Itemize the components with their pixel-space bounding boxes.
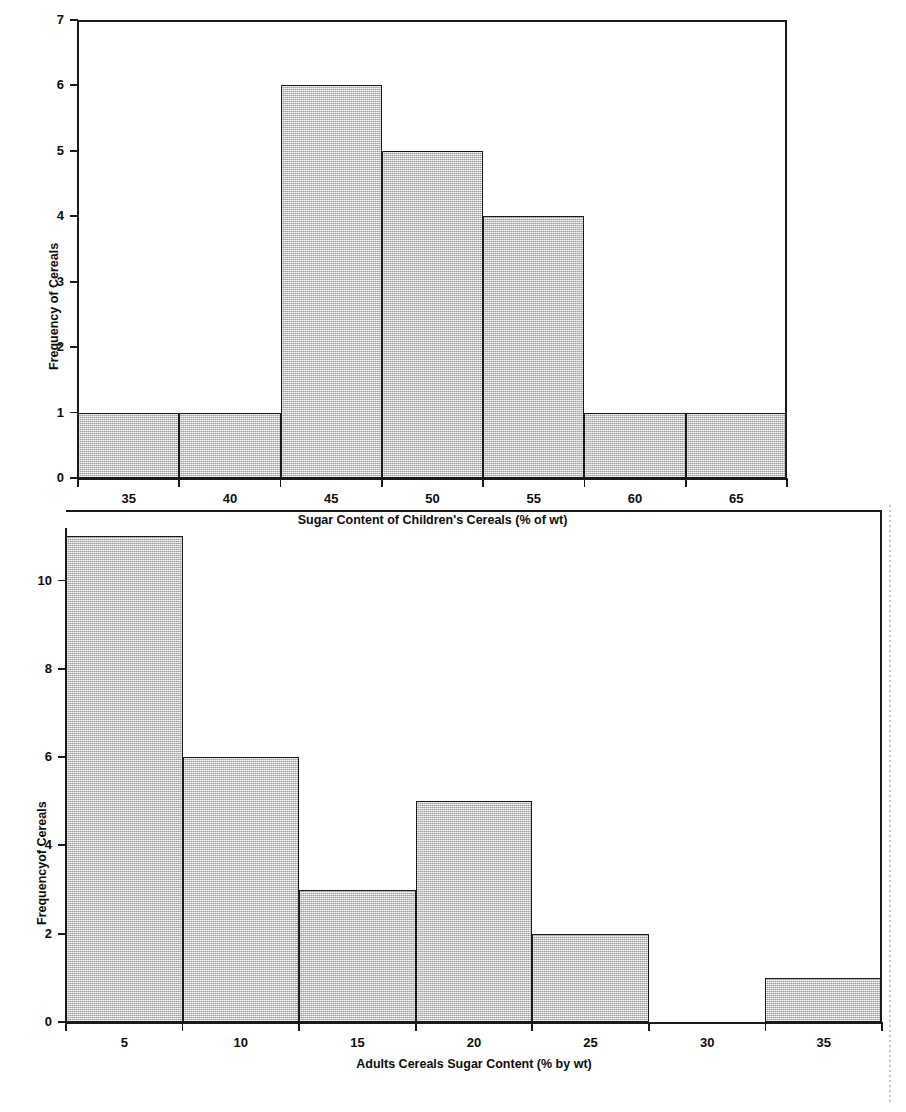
y-axis-line [65,528,67,1024]
y-axis-tick [70,84,78,86]
x-axis-tick [65,1024,67,1031]
y-axis-tick [58,756,66,758]
adults-cereals-histogram: 02468105101520253035Adults Cereals Sugar… [0,505,906,1112]
x-axis-tick [685,480,687,487]
x-axis-tick-label: 10 [211,1036,271,1049]
y-axis-tick [70,346,78,348]
y-axis-tick [70,412,78,414]
y-axis-title: Frequencyof Cereals [36,801,49,925]
y-axis-tick [70,19,78,21]
y-axis-tick-label: 6 [38,78,64,91]
x-axis-tick-label: 5 [94,1036,154,1049]
y-axis-tick [58,580,66,582]
y-axis-tick [58,668,66,670]
x-axis-line [65,1022,883,1024]
y-axis-tick-label: 2 [26,927,52,940]
x-axis-tick-label: 35 [794,1036,854,1049]
x-axis-tick [77,480,79,487]
x-axis-tick [182,1024,184,1031]
childrens-cereals-histogram: 0123456735404550556065Sugar Content of C… [0,0,906,505]
x-axis-tick [786,480,788,487]
x-axis-tick-label: 65 [706,492,766,505]
scan-page-edge-artifact [889,505,891,1105]
y-axis-tick-label: 5 [38,144,64,157]
y-axis-tick-label: 0 [38,471,64,484]
x-axis-tick [381,480,383,487]
x-axis-tick [298,1024,300,1031]
x-axis-tick-label: 25 [561,1036,621,1049]
y-axis-tick-label: 7 [38,13,64,26]
x-axis-tick-label: 55 [504,492,564,505]
x-axis-tick [765,1024,767,1031]
x-axis-title: Adults Cereals Sugar Content (% by wt) [224,1058,724,1071]
x-axis-tick [531,1024,533,1031]
y-axis-tick [70,477,78,479]
y-axis-tick-label: 8 [26,662,52,675]
x-axis-tick-label: 30 [677,1036,737,1049]
y-axis-tick-label: 6 [26,750,52,763]
x-axis-tick [648,1024,650,1031]
x-axis-tick [482,480,484,487]
y-axis-tick [58,844,66,846]
x-axis-tick [178,480,180,487]
x-axis-tick-label: 15 [327,1036,387,1049]
x-axis-tick-label: 20 [444,1036,504,1049]
x-axis-tick [584,480,586,487]
x-axis-tick-label: 50 [403,492,463,505]
x-axis-tick [881,1024,883,1031]
x-axis-tick-label: 40 [200,492,260,505]
y-axis-tick-label: 0 [26,1015,52,1028]
x-axis-line [77,478,788,480]
y-axis-tick-label: 1 [38,406,64,419]
x-axis-tick [415,1024,417,1031]
plot-frame [78,20,787,478]
y-axis-tick [58,1021,66,1023]
y-axis-title: Frequency of Cereals [48,243,61,370]
y-axis-tick-label: 4 [38,209,64,222]
x-axis-tick-label: 60 [605,492,665,505]
x-axis-tick-label: 35 [99,492,159,505]
y-axis-tick [70,215,78,217]
y-axis-tick-label: 10 [26,574,52,587]
plot-frame [66,510,882,1022]
x-axis-tick-label: 45 [301,492,361,505]
y-axis-tick [58,933,66,935]
x-axis-tick [280,480,282,487]
y-axis-tick [70,281,78,283]
y-axis-tick [70,150,78,152]
